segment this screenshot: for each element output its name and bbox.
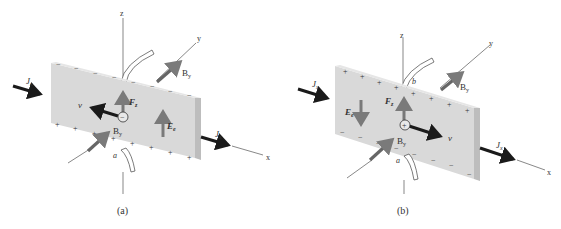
- svg-text:−: −: [431, 156, 436, 165]
- x-axis-line: [517, 160, 545, 170]
- svg-text:−: −: [74, 64, 79, 73]
- svg-text:+: +: [187, 153, 192, 162]
- plate-edge: [474, 108, 480, 181]
- current-in-arrow: [13, 86, 40, 94]
- contact-lead-top: [401, 58, 434, 89]
- svg-text:+: +: [377, 78, 382, 87]
- velocity-label: v: [78, 100, 82, 110]
- svg-text:−: −: [56, 60, 61, 69]
- z-axis-label: z: [400, 31, 404, 40]
- caption-b: (b): [397, 205, 409, 217]
- svg-text:+: +: [343, 67, 348, 76]
- panel-b: z y By b + + + + + + + + − − − − − − − −: [298, 31, 551, 217]
- svg-text:−: −: [93, 69, 98, 78]
- plate-edge: [195, 98, 201, 160]
- y-axis-front-line: [347, 160, 372, 178]
- svg-text:+: +: [360, 72, 365, 81]
- y-axis-label: y: [489, 39, 493, 48]
- contact-a-label: a: [396, 156, 400, 165]
- b-field-arrow-front: [88, 133, 108, 151]
- svg-text:+: +: [394, 83, 399, 92]
- y-axis-label: y: [197, 34, 201, 43]
- b-field-back-label: By: [460, 82, 469, 93]
- svg-text:−: −: [358, 133, 363, 142]
- svg-text:+: +: [447, 100, 452, 109]
- current-out-label: Jx: [215, 129, 222, 140]
- svg-text:+: +: [465, 106, 470, 115]
- caption-a: (a): [117, 205, 128, 217]
- current-in-label: Jx: [312, 79, 319, 90]
- current-in-arrow: [298, 89, 327, 98]
- svg-text:−: −: [340, 128, 345, 137]
- svg-text:−: −: [168, 87, 173, 96]
- current-in-label: Jx: [26, 76, 33, 87]
- hall-effect-figure: z y By − − − − − − − − + + + +: [0, 0, 561, 229]
- b-field-back-label: By: [182, 68, 191, 79]
- contact-lead-bottom: [121, 148, 135, 172]
- svg-text:−: −: [187, 91, 192, 100]
- svg-text:+: +: [168, 148, 173, 157]
- contact-a-label: a: [113, 151, 117, 160]
- velocity-label: v: [448, 133, 452, 143]
- carrier-charge-symbol: +: [402, 121, 407, 130]
- z-axis-label: z: [120, 9, 124, 18]
- contact-b-label: b: [412, 77, 416, 86]
- svg-text:+: +: [429, 94, 434, 103]
- svg-text:+: +: [130, 139, 135, 148]
- svg-text:−: −: [467, 170, 472, 179]
- x-axis-line: [232, 146, 263, 155]
- svg-text:−: −: [376, 139, 381, 148]
- svg-text:+: +: [149, 143, 154, 152]
- svg-text:+: +: [55, 120, 60, 129]
- svg-text:+: +: [411, 89, 416, 98]
- panel-a: z y By − − − − − − − − + + + +: [13, 9, 270, 217]
- b-field-arrow-back: [157, 62, 180, 82]
- contact-lead-top: [121, 50, 154, 83]
- svg-text:−: −: [131, 78, 136, 87]
- carrier-charge-symbol: −: [120, 113, 125, 122]
- b-field-arrow-back: [441, 73, 462, 90]
- svg-text:−: −: [112, 73, 117, 82]
- svg-text:+: +: [92, 129, 97, 138]
- current-out-label: Jx: [496, 140, 503, 151]
- svg-text:−: −: [150, 82, 155, 91]
- svg-text:−: −: [412, 150, 417, 159]
- svg-text:−: −: [449, 161, 454, 170]
- x-axis-label: x: [266, 153, 270, 162]
- svg-text:+: +: [73, 124, 78, 133]
- x-axis-label: x: [547, 168, 551, 177]
